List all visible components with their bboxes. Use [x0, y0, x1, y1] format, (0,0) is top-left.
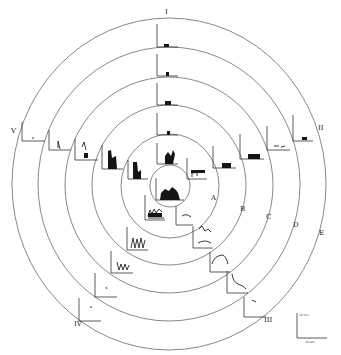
scale-vertical-label: 10 mv — [299, 313, 308, 317]
diagram: I II III IV V A B C D E 10 mv 10 sec — [0, 0, 341, 355]
sector-label-ii: II — [318, 125, 324, 132]
ring-label-d: D — [293, 222, 299, 229]
ring-label-b: B — [240, 206, 245, 213]
sector-iii-traces — [176, 206, 266, 317]
sector-label-v: V — [11, 128, 16, 135]
center-trace — [156, 178, 184, 200]
scale-horizontal-label: 10 sec — [305, 340, 315, 344]
sector-i-traces — [157, 24, 178, 164]
ring-outer-e — [12, 18, 326, 350]
sector-label-iii: III — [264, 317, 272, 324]
ring-label-a: A — [211, 195, 216, 202]
sector-label-i: I — [165, 9, 168, 16]
ring-b — [92, 105, 246, 265]
ring-label-e: E — [319, 230, 324, 237]
sector-label-iv: IV — [74, 321, 82, 328]
ring-diagram-svg — [0, 0, 341, 355]
sector-ii-traces — [187, 115, 313, 179]
ring-c — [65, 77, 273, 293]
ring-d — [38, 47, 300, 321]
ring-a — [121, 134, 219, 238]
ring-label-c: C — [266, 214, 271, 221]
sector-v-traces — [22, 122, 148, 179]
